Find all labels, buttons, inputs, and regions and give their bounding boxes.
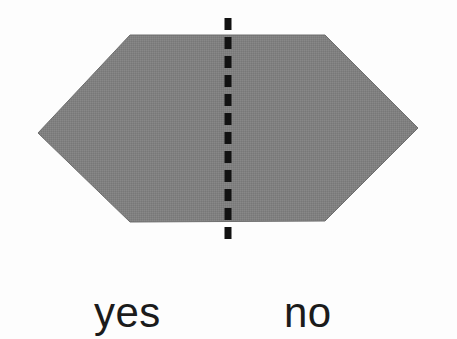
label-yes: yes	[94, 292, 161, 334]
label-row: yes no	[0, 292, 457, 339]
figure-root: yes no	[0, 0, 457, 339]
figure-canvas	[0, 0, 457, 339]
label-no: no	[284, 292, 332, 334]
